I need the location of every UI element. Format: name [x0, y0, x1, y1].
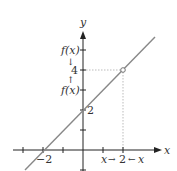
x-tick-label-neg2: −2 [36, 153, 52, 166]
hole-point [121, 68, 126, 73]
x-right-label: x [138, 153, 145, 166]
fx-lower-label: f(x) [60, 84, 80, 97]
limit-graph: y x −2 2 2 4 f(x) ↓ ↑ f(x) x → ← x [0, 0, 177, 171]
x-tick-label-2: 2 [119, 153, 126, 166]
x-left-label: x [101, 153, 108, 166]
fx-upper-label: f(x) [60, 44, 80, 57]
arrow-down-icon: ↓ [67, 57, 75, 67]
arrow-left-icon: ← [128, 154, 136, 164]
x-axis-label: x [164, 144, 171, 157]
x-axis-arrow-icon [154, 147, 162, 153]
y-axis-arrow-icon [80, 31, 86, 39]
arrow-right-icon: → [108, 154, 116, 164]
y-tick-label-2: 2 [87, 104, 94, 117]
y-axis-label: y [79, 16, 87, 29]
